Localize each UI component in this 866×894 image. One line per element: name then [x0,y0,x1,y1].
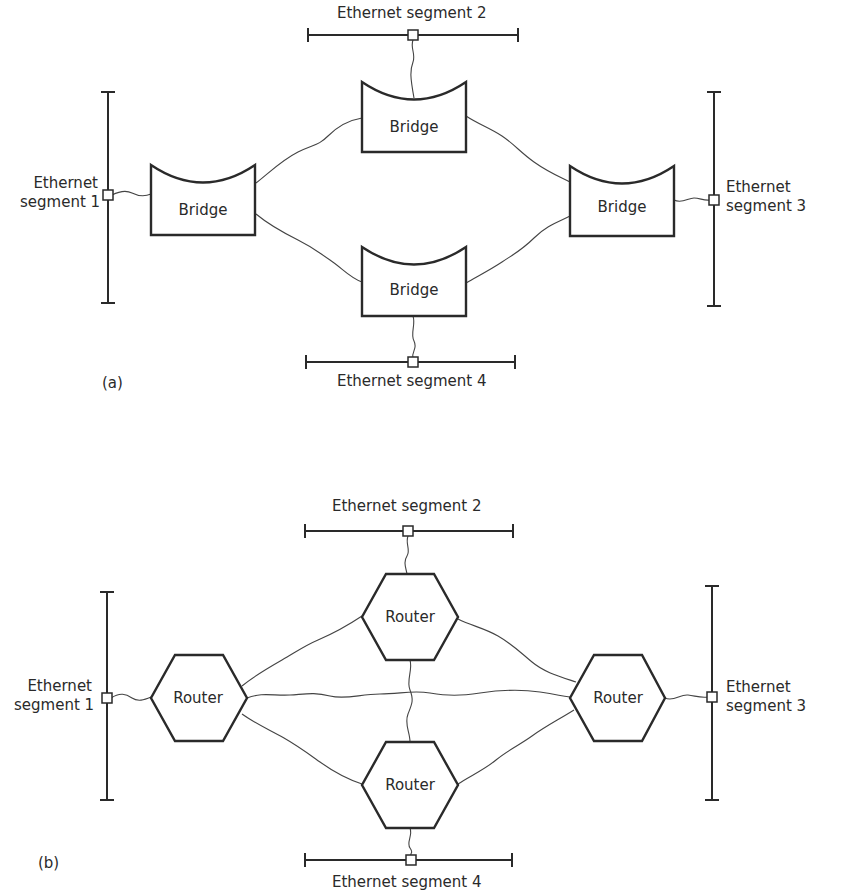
segment-3-label-b: Ethernet segment 3 [726,678,806,716]
connector-icon [408,30,418,40]
connector-icon [103,190,113,200]
segment-1-label-line1: Ethernet [20,174,98,193]
segment-3-label-line1: Ethernet [726,178,806,197]
segment-3-label-a: Ethernet segment 3 [726,178,806,216]
segment-3-label-line1: Ethernet [726,678,806,697]
connector-icon [403,526,413,536]
connector-icon [408,357,418,367]
segment-4-label-b: Ethernet segment 4 [332,873,482,892]
caption-b: (b) [38,854,59,873]
connector-icon [707,692,717,702]
segment-2-label-a: Ethernet segment 2 [337,4,487,23]
bridge-bottom-label: Bridge [390,281,439,299]
router-bottom-label: Router [385,776,435,794]
segment-2-label-b: Ethernet segment 2 [332,497,482,516]
segment-1-label-line2: segment 1 [20,193,98,212]
connector-icon [102,693,112,703]
connector-icon [406,855,416,865]
segment-1-label-b: Ethernet segment 1 [14,677,92,715]
caption-a: (a) [102,374,123,393]
segment-1-label-a: Ethernet segment 1 [20,174,98,212]
bridge-right-label: Bridge [598,198,647,216]
bridge-top-shape [362,82,466,152]
segment-1-label-line2: segment 1 [14,696,92,715]
segment-3-label-line2: segment 3 [726,697,806,716]
bridge-left-label: Bridge [179,201,228,219]
segment-4-label-a: Ethernet segment 4 [337,372,487,391]
router-right-label: Router [593,689,643,707]
connector-icon [709,195,719,205]
segment-3-label-line2: segment 3 [726,197,806,216]
router-top-label: Router [385,608,435,626]
bridge-top-label: Bridge [390,118,439,136]
bridge-left-shape [151,165,255,235]
segment-1-label-line1: Ethernet [14,677,92,696]
router-left-label: Router [173,689,223,707]
